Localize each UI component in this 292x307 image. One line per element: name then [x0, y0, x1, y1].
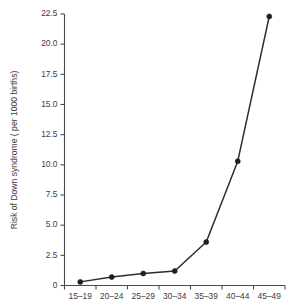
data-point — [109, 275, 114, 280]
data-point — [141, 271, 146, 276]
y-axis-tick-labels: 02.55.07.510.012.515.017.520.022.5 — [41, 8, 58, 290]
data-point — [267, 14, 272, 19]
y-tick-label: 7.5 — [46, 189, 58, 199]
x-tick-label: 25–29 — [132, 291, 156, 301]
y-tick-label: 5.0 — [46, 219, 58, 229]
data-series-group — [78, 14, 272, 284]
y-tick-label: 20.0 — [41, 38, 58, 48]
x-axis-tick-labels: 15–1920–2425–2930–3435–3940–4445–49 — [69, 291, 282, 301]
x-tick-label: 40–44 — [226, 291, 250, 301]
y-tick-label: 22.5 — [41, 8, 58, 18]
y-tick-label: 2.5 — [46, 250, 58, 260]
y-tick-label: 10.0 — [41, 159, 58, 169]
data-line-path — [80, 16, 269, 281]
y-axis-ticks — [61, 14, 65, 286]
y-tick-label: 15.0 — [41, 99, 58, 109]
chart-container: 02.55.07.510.012.515.017.520.022.5 15–19… — [0, 0, 292, 307]
y-tick-label: 0 — [53, 280, 58, 290]
y-tick-label: 17.5 — [41, 69, 58, 79]
x-tick-label: 15–19 — [69, 291, 93, 301]
data-point — [204, 240, 209, 245]
y-axis-title: Risk of Down syndrome ( per 1000 births) — [9, 71, 19, 230]
data-point — [235, 159, 240, 164]
x-tick-label: 45–49 — [258, 291, 282, 301]
line-chart-plot: 02.55.07.510.012.515.017.520.022.5 15–19… — [0, 0, 292, 307]
data-point — [78, 279, 83, 284]
data-markers — [78, 14, 272, 284]
x-tick-label: 20–24 — [100, 291, 124, 301]
x-tick-label: 30–34 — [163, 291, 187, 301]
y-axis-title-text: Risk of Down syndrome ( per 1000 births) — [9, 71, 19, 230]
x-axis-ticks — [65, 286, 286, 290]
x-tick-label: 35–39 — [195, 291, 219, 301]
data-point — [172, 269, 177, 274]
y-tick-label: 12.5 — [41, 129, 58, 139]
